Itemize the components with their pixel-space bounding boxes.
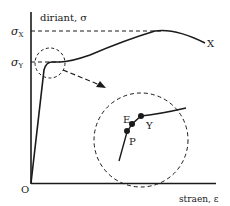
curve-end-label-x: X <box>207 38 215 49</box>
point-y-label: Y <box>145 120 153 131</box>
x-axis-label: straen, ε <box>179 194 219 204</box>
point-p-marker <box>124 128 130 134</box>
point-p-label: P <box>129 136 136 147</box>
inset-circle <box>94 93 188 187</box>
point-y-marker <box>138 113 144 119</box>
stress-strain-curve <box>31 31 205 184</box>
zoom-arrow-line <box>63 70 100 85</box>
stress-strain-diagram: diriant, σ σX σY X P E Y O straen, ε <box>0 0 230 206</box>
y-axis-label: diriant, σ <box>40 12 87 23</box>
zoom-arrow-head <box>96 81 106 88</box>
sigma-x-label: σX <box>11 25 24 39</box>
origin-label: O <box>21 184 29 195</box>
point-e-label: E <box>123 114 130 125</box>
sigma-y-label: σY <box>11 56 24 70</box>
